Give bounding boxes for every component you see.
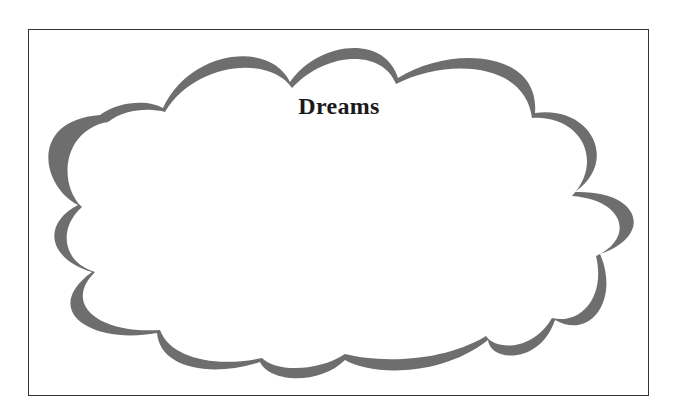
cloud-shape xyxy=(0,0,678,417)
card-title: Dreams xyxy=(0,93,678,120)
